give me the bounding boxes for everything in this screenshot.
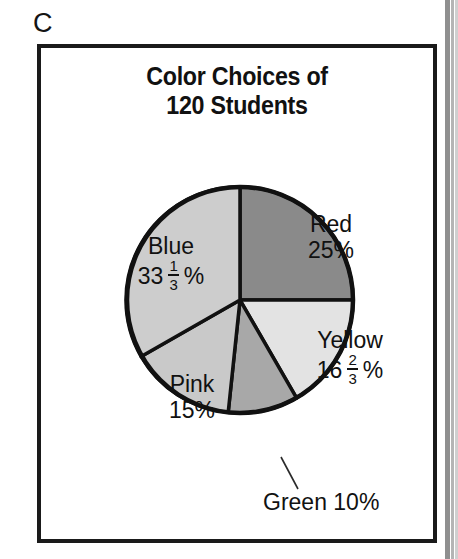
blue-fraction: 1 3 — [168, 258, 178, 292]
blue-fraction-denominator: 3 — [168, 274, 178, 292]
mixed-number-yellow: 16 2 3 % — [317, 353, 383, 387]
pie-label-green-callout: Green 10% — [263, 489, 379, 515]
pie-label-red-value: 25% — [283, 237, 379, 263]
figure-frame: Color Choices of 120 Students — [37, 44, 437, 543]
yellow-fraction-numerator: 2 — [347, 352, 357, 368]
pie-label-pink: Pink 15% — [142, 371, 242, 423]
panel-letter: C — [33, 10, 53, 37]
mixed-number-blue: 33 1 3 % — [138, 259, 204, 293]
pie-label-blue-value: 33 1 3 % — [112, 259, 230, 293]
blue-whole-number: 33 — [138, 263, 164, 289]
pie-label-pink-value: 15% — [142, 397, 242, 423]
yellow-fraction: 2 3 — [347, 352, 357, 386]
blue-percent-sign: % — [184, 263, 204, 289]
pie-label-pink-name: Pink — [142, 371, 242, 397]
figure-page: C Color Choices of 120 Students — [0, 0, 458, 559]
pie-label-yellow-name: Yellow — [288, 327, 412, 353]
blue-fraction-numerator: 1 — [168, 258, 178, 274]
yellow-percent-sign: % — [363, 357, 383, 383]
pie-label-blue: Blue 33 1 3 % — [112, 233, 230, 293]
chart-title: Color Choices of 120 Students — [55, 62, 420, 120]
pie-label-red: Red 25% — [283, 211, 379, 263]
scan-edge-band — [445, 0, 450, 559]
pie-label-yellow: Yellow 16 2 3 % — [288, 327, 412, 387]
pie-label-yellow-value: 16 2 3 % — [288, 353, 412, 387]
chart-title-line-1: Color Choices of — [55, 62, 420, 91]
yellow-fraction-denominator: 3 — [347, 368, 357, 386]
pie-label-blue-name: Blue — [112, 233, 230, 259]
chart-title-line-2: 120 Students — [55, 91, 420, 120]
scan-edge-band — [451, 0, 454, 559]
pie-label-red-name: Red — [283, 211, 379, 237]
yellow-whole-number: 16 — [317, 357, 343, 383]
